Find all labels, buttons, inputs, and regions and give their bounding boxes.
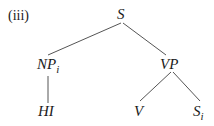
node-np-subscript: i — [56, 63, 59, 75]
tree-branches — [0, 0, 214, 126]
node-np: NPi — [37, 57, 59, 73]
node-v: V — [134, 104, 143, 119]
example-label: (iii) — [8, 8, 29, 23]
node-v-label: V — [134, 103, 143, 119]
node-np-label: NP — [37, 56, 56, 72]
syntax-tree-diagram: (iii) S NPi VP HI V Si — [0, 0, 214, 126]
branch-s-np — [48, 23, 121, 55]
node-hi-label: HI — [38, 103, 54, 119]
node-s-i-label: S — [193, 103, 201, 119]
node-s-i: Si — [193, 104, 204, 120]
branch-vp-v — [140, 72, 171, 101]
branch-vp-si — [173, 72, 200, 101]
node-vp-label: VP — [160, 56, 178, 72]
node-hi: HI — [38, 104, 54, 119]
node-s-root-label: S — [117, 6, 125, 22]
branch-s-vp — [123, 23, 166, 55]
node-vp: VP — [160, 57, 178, 72]
node-s-root: S — [117, 7, 125, 22]
node-s-i-subscript: i — [201, 110, 204, 122]
